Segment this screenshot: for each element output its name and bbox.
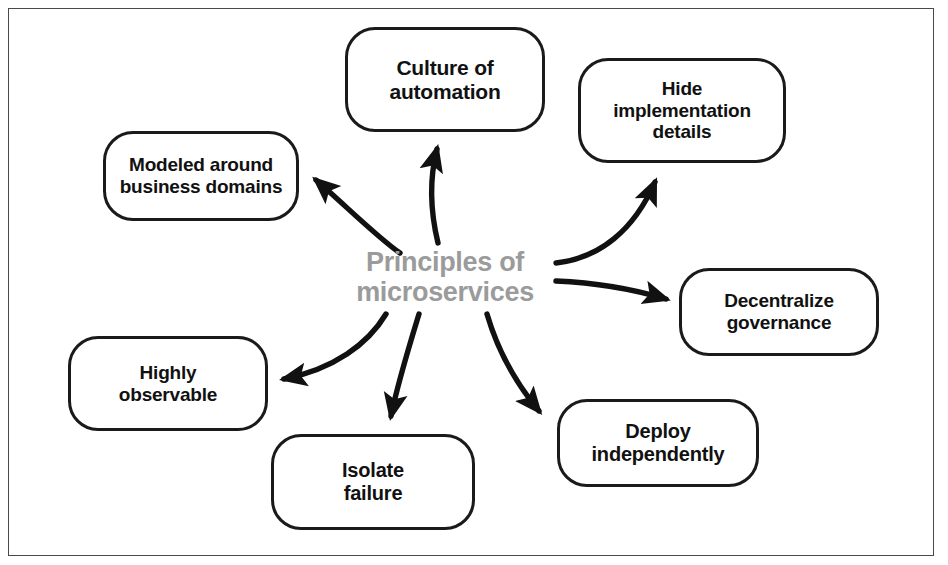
node-decentralize-governance[interactable]: Decentralize governance <box>679 268 879 356</box>
arrow-to-highly-observable <box>284 314 386 379</box>
node-label-hide-implementation-details: Hide implementation details <box>613 78 751 143</box>
arrow-to-deploy-independently <box>487 314 539 411</box>
node-label-isolate-failure: Isolate failure <box>342 459 404 505</box>
node-deploy-independently[interactable]: Deploy independently <box>557 399 759 487</box>
node-culture-of-automation[interactable]: Culture of automation <box>345 27 545 132</box>
arrow-to-hide-implementation-details <box>556 182 655 263</box>
arrow-to-decentralize-governance <box>556 281 666 299</box>
node-label-highly-observable: Highly observable <box>119 362 217 405</box>
node-modeled-around-business-domains[interactable]: Modeled around business domains <box>103 131 299 221</box>
node-label-deploy-independently: Deploy independently <box>592 420 725 466</box>
node-label-modeled-around-business-domains: Modeled around business domains <box>120 154 283 197</box>
arrow-to-modeled-around-business-domains <box>316 180 400 253</box>
node-label-culture-of-automation: Culture of automation <box>389 56 500 104</box>
node-label-decentralize-governance: Decentralize governance <box>724 290 834 333</box>
diagram-page: Principles of microservices Culture of a… <box>0 0 948 565</box>
arrow-to-isolate-failure <box>391 314 419 416</box>
node-highly-observable[interactable]: Highly observable <box>68 336 268 431</box>
center-label: Principles of microservices <box>345 248 545 307</box>
node-isolate-failure[interactable]: Isolate failure <box>271 434 475 530</box>
node-hide-implementation-details[interactable]: Hide implementation details <box>578 58 786 163</box>
arrow-to-culture-of-automation <box>431 149 438 243</box>
